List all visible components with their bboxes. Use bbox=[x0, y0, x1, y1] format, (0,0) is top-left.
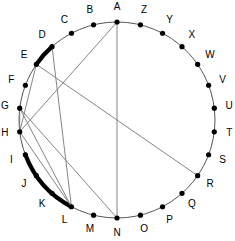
vertex-label-i: I bbox=[10, 154, 13, 165]
vertex-dot-i bbox=[23, 152, 28, 157]
vertex-label-o: O bbox=[140, 223, 148, 234]
vertex-dot-q bbox=[179, 191, 184, 196]
vertex-label-p: P bbox=[166, 214, 173, 225]
vertex-label-d: D bbox=[38, 29, 45, 40]
vertex-label-g: G bbox=[1, 100, 9, 111]
figure-canvas: ABCDEFGHIJKLMNOPQRSTUVWXYZ bbox=[0, 0, 235, 241]
vertex-dot-w bbox=[195, 62, 200, 67]
vertex-label-a: A bbox=[114, 1, 121, 12]
vertex-dot-m bbox=[91, 213, 96, 218]
vertex-dot-c bbox=[69, 31, 74, 36]
vertex-dot-f bbox=[23, 83, 28, 88]
vertex-dot-a bbox=[114, 19, 119, 24]
vertex-label-q: Q bbox=[188, 198, 196, 209]
vertex-label-w: W bbox=[205, 49, 215, 60]
vertex-label-k: K bbox=[39, 198, 46, 209]
vertex-label-h: H bbox=[1, 127, 8, 138]
vertex-label-t: T bbox=[226, 127, 232, 138]
vertex-label-s: S bbox=[219, 154, 226, 165]
vertex-dot-o bbox=[138, 213, 143, 218]
vertex-label-b: B bbox=[87, 4, 94, 15]
vertex-dot-l bbox=[69, 204, 74, 209]
circle-chord-diagram: ABCDEFGHIJKLMNOPQRSTUVWXYZ bbox=[0, 0, 235, 241]
vertex-label-e: E bbox=[21, 49, 28, 60]
highlighted-arc-d-e bbox=[36, 47, 52, 65]
vertex-dot-d bbox=[49, 44, 54, 49]
vertex-dot-y bbox=[160, 31, 165, 36]
vertex-dot-g bbox=[17, 106, 22, 111]
vertex-label-l: L bbox=[62, 214, 68, 225]
vertex-label-n: N bbox=[113, 227, 120, 238]
vertex-label-r: R bbox=[206, 178, 213, 189]
vertex-label-x: X bbox=[189, 29, 196, 40]
vertex-dot-k bbox=[49, 191, 54, 196]
vertex-dot-b bbox=[91, 22, 96, 27]
vertex-dot-u bbox=[212, 106, 217, 111]
vertex-label-f: F bbox=[8, 74, 14, 85]
vertex-dot-v bbox=[206, 83, 211, 88]
vertex-dot-p bbox=[160, 204, 165, 209]
vertex-dot-t bbox=[212, 129, 217, 134]
vertex-label-j: J bbox=[22, 178, 27, 189]
vertex-dot-r bbox=[195, 173, 200, 178]
vertex-dot-s bbox=[206, 152, 211, 157]
chord-e-h bbox=[20, 64, 37, 131]
vertex-label-u: U bbox=[226, 100, 233, 111]
vertex-label-c: C bbox=[61, 14, 68, 25]
chord-a-h bbox=[20, 22, 117, 132]
vertex-label-y: Y bbox=[166, 14, 173, 25]
vertex-dot-x bbox=[179, 44, 184, 49]
vertex-dot-e bbox=[34, 62, 39, 67]
vertex-label-z: Z bbox=[141, 4, 147, 15]
vertex-dot-n bbox=[114, 215, 119, 220]
vertex-label-m: M bbox=[86, 223, 94, 234]
vertex-label-v: V bbox=[219, 74, 226, 85]
vertex-dot-j bbox=[34, 173, 39, 178]
vertex-dot-z bbox=[138, 22, 143, 27]
vertex-dot-h bbox=[17, 129, 22, 134]
